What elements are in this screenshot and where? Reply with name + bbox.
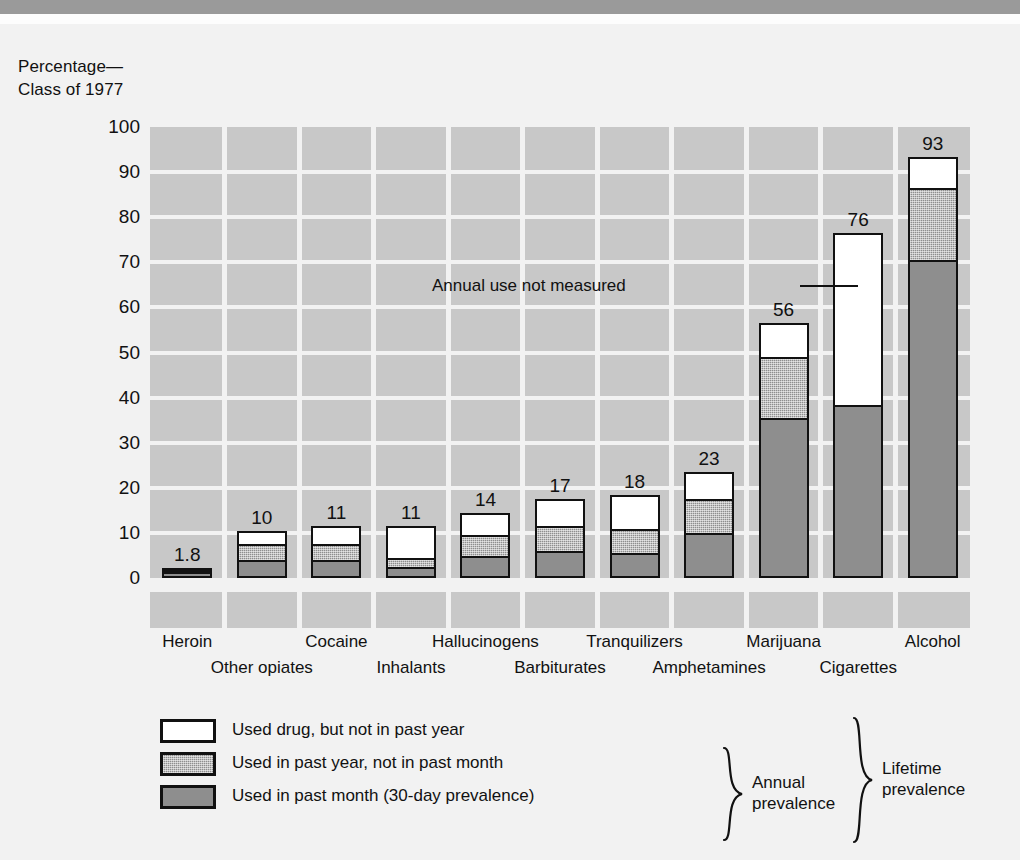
category-strip-background — [150, 592, 970, 628]
lifetime-prevalence-brace — [850, 716, 876, 844]
bar-segment-past_month — [833, 405, 883, 578]
annotation-leader-line — [800, 285, 858, 287]
legend-swatch-mid — [160, 752, 216, 776]
bar-hallucinogens: 14 — [460, 515, 510, 578]
bar-segment-past_month — [460, 556, 510, 578]
annotation-label: Annual use not measured — [432, 277, 626, 294]
bar-segment-past_month — [237, 560, 287, 578]
gridline-vertical-strip — [595, 592, 600, 628]
bar-segment-past_month — [759, 418, 809, 578]
bar-segment-not_past_year — [908, 157, 958, 191]
bar-segment-past_month — [908, 260, 958, 578]
bar-alcohol: 93 — [908, 159, 958, 578]
bar-segment-past_year_not_month — [311, 544, 361, 562]
annual-prevalence-brace — [720, 746, 746, 842]
gridline-vertical-strip — [744, 592, 749, 628]
y-tick-20: 20 — [2, 478, 140, 497]
bar-segment-past_month — [535, 551, 585, 578]
bar-amphetamines: 23 — [684, 474, 734, 578]
legend-swatch-low — [160, 785, 216, 809]
chart-legend: Annual prevalence Lifetime prevalence Us… — [160, 716, 1000, 846]
legend-label: Used in past year, not in past month — [232, 753, 503, 773]
bar-segment-past_month — [311, 560, 361, 578]
bar-segment-past_year_not_month — [535, 526, 585, 553]
bar-value-label: 56 — [724, 300, 844, 319]
bar-value-label: 18 — [575, 472, 695, 491]
bar-segment-past_year_not_month — [684, 499, 734, 535]
bar-segment-not_past_year — [311, 526, 361, 546]
y-axis-caption: Percentage— Class of 1977 — [18, 56, 123, 102]
gridline-vertical — [520, 127, 525, 578]
gridline-vertical-strip — [893, 592, 898, 628]
plot-area: 1.810111114171823567693 — [150, 127, 970, 578]
y-tick-90: 90 — [2, 162, 140, 181]
bar-segment-not_past_year — [460, 513, 510, 538]
y-tick-100: 100 — [2, 117, 140, 136]
legend-label: Used drug, but not in past year — [232, 720, 464, 740]
bar-tranquilizers: 18 — [610, 497, 660, 578]
bar-other-opiates: 10 — [237, 533, 287, 578]
y-tick-50: 50 — [2, 343, 140, 362]
bar-segment-past_year_not_month — [908, 188, 958, 262]
gridline-vertical — [669, 127, 674, 578]
bar-heroin: 1.8 — [162, 570, 212, 578]
gridline-vertical — [818, 127, 823, 578]
bar-segment-past_month — [684, 533, 734, 578]
bar-segment-past_year_not_month — [237, 544, 287, 562]
chart-stage: Percentage— Class of 1977 01020304050607… — [0, 24, 1020, 860]
bar-segment-past_year_not_month — [610, 529, 660, 556]
y-tick-40: 40 — [2, 388, 140, 407]
bar-segment-not_past_year — [386, 526, 436, 560]
gridline-horizontal — [150, 170, 970, 174]
annual-prevalence-label: Annual prevalence — [752, 772, 835, 814]
gridline-vertical-strip — [371, 592, 376, 628]
bar-value-label: 23 — [649, 449, 769, 468]
gridline-vertical — [744, 127, 749, 578]
bar-segment-not_past_year — [535, 499, 585, 528]
bar-marijuana: 56 — [759, 325, 809, 578]
lifetime-prevalence-label: Lifetime prevalence — [882, 758, 965, 800]
top-white-band — [0, 14, 1020, 24]
legend-swatch-white — [160, 719, 216, 743]
bar-barbiturates: 17 — [535, 501, 585, 578]
bar-inhalants: 11 — [386, 528, 436, 578]
y-tick-70: 70 — [2, 252, 140, 271]
bar-segment-not_past_year — [759, 323, 809, 359]
bar-value-label: 76 — [798, 210, 918, 229]
zero-line-band — [150, 578, 970, 592]
gridline-vertical-strip — [669, 592, 674, 628]
bar-segment-past_month — [610, 553, 660, 578]
gridline-vertical-strip — [297, 592, 302, 628]
y-tick-60: 60 — [2, 297, 140, 316]
x-label-cigarettes: Cigarettes — [768, 658, 948, 677]
bar-segment-past_year_not_month — [759, 357, 809, 420]
bar-segment-past_year_not_month — [460, 535, 510, 557]
bar-segment-not_past_year — [684, 472, 734, 501]
gridline-vertical-strip — [446, 592, 451, 628]
x-axis-category-labels: HeroinOther opiatesCocaineInhalantsHallu… — [0, 632, 1020, 688]
bar-segment-not_past_year — [162, 568, 212, 572]
y-tick-0: 0 — [2, 568, 140, 587]
bar-value-label: 1.8 — [127, 545, 247, 564]
top-gray-band — [0, 0, 1020, 14]
bar-segment-not_past_year — [610, 495, 660, 531]
y-tick-10: 10 — [2, 523, 140, 542]
gridline-vertical-strip — [818, 592, 823, 628]
bar-segment-not_past_year — [833, 233, 883, 406]
x-label-alcohol: Alcohol — [843, 632, 1020, 651]
y-axis-tick-labels: 0102030405060708090100 — [0, 127, 140, 578]
bar-value-label: 93 — [873, 134, 993, 153]
gridline-vertical-strip — [222, 592, 227, 628]
gridline-vertical — [595, 127, 600, 578]
gridline-vertical — [893, 127, 898, 578]
bar-segment-not_past_year — [237, 531, 287, 547]
y-tick-80: 80 — [2, 207, 140, 226]
legend-label: Used in past month (30-day prevalence) — [232, 786, 534, 806]
bar-cocaine: 11 — [311, 528, 361, 578]
gridline-vertical-strip — [520, 592, 525, 628]
y-tick-30: 30 — [2, 433, 140, 452]
